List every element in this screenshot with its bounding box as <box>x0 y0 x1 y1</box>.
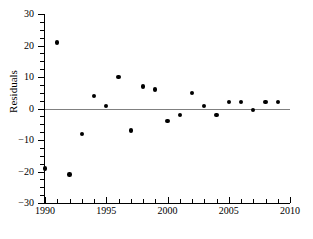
data-point <box>80 132 84 136</box>
data-point <box>129 128 133 132</box>
x-tick-major <box>290 197 291 203</box>
y-tick-major <box>38 46 44 47</box>
data-point <box>141 84 145 88</box>
data-point <box>55 40 59 44</box>
y-tick-label: −20 <box>0 167 34 177</box>
y-tick-major <box>38 14 44 15</box>
data-point <box>227 100 231 104</box>
data-point <box>67 172 71 176</box>
y-tick-label: 30 <box>0 9 34 19</box>
y-axis-title: Residuals <box>8 52 19 132</box>
data-point <box>153 87 157 91</box>
y-tick-major <box>38 203 44 204</box>
y-tick-minor <box>40 61 44 62</box>
y-tick-minor <box>40 116 44 117</box>
data-point <box>214 113 218 117</box>
x-tick-label: 1990 <box>25 206 65 216</box>
y-tick-minor <box>40 53 44 54</box>
data-point <box>104 104 108 108</box>
x-axis-line <box>44 203 290 204</box>
data-point <box>202 104 206 108</box>
data-point <box>165 119 169 123</box>
data-point <box>190 91 194 95</box>
y-tick-minor <box>40 38 44 39</box>
data-point <box>251 108 255 112</box>
x-tick-label: 2010 <box>270 206 310 216</box>
data-point <box>239 100 243 104</box>
y-tick-minor <box>40 164 44 165</box>
data-point <box>92 94 96 98</box>
data-point <box>43 166 47 170</box>
y-tick-minor <box>40 156 44 157</box>
y-tick-minor <box>40 187 44 188</box>
y-tick-minor <box>40 93 44 94</box>
y-tick-minor <box>40 101 44 102</box>
y-tick-major <box>38 140 44 141</box>
y-tick-minor <box>40 179 44 180</box>
y-tick-label: 0 <box>0 104 34 114</box>
x-tick-label: 1995 <box>86 206 126 216</box>
x-tick-label: 2005 <box>209 206 249 216</box>
plot-area <box>45 14 290 203</box>
data-point <box>178 113 182 117</box>
y-tick-minor <box>40 22 44 23</box>
y-tick-label: −10 <box>0 135 34 145</box>
y-tick-minor <box>40 30 44 31</box>
figure-caption <box>0 228 313 236</box>
x-tick-label: 2000 <box>148 206 188 216</box>
y-tick-minor <box>40 148 44 149</box>
data-point <box>276 100 280 104</box>
y-tick-minor <box>40 124 44 125</box>
residuals-scatter-figure: Residuals 3020100−10−20−30 1990199520002… <box>0 0 313 239</box>
y-tick-minor <box>40 85 44 86</box>
y-tick-label: 10 <box>0 72 34 82</box>
y-tick-major <box>38 109 44 110</box>
y-tick-major <box>38 172 44 173</box>
y-tick-label: 20 <box>0 41 34 51</box>
y-tick-major <box>38 77 44 78</box>
y-tick-minor <box>40 132 44 133</box>
y-tick-minor <box>40 195 44 196</box>
data-point <box>116 75 120 79</box>
y-tick-minor <box>40 69 44 70</box>
data-point <box>263 100 267 104</box>
